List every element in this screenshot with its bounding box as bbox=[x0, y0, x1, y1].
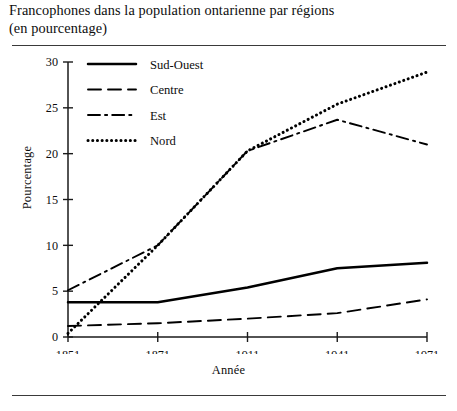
legend-label-sud-ouest: Sud-Ouest bbox=[150, 58, 204, 72]
chart-series bbox=[68, 72, 427, 333]
x-axis-tick-label: 1871 bbox=[146, 348, 170, 354]
legend-label-centre: Centre bbox=[150, 83, 184, 97]
y-axis-tick-label: 20 bbox=[46, 147, 58, 161]
figure-title-line-1: Francophones dans la population ontarien… bbox=[9, 2, 449, 20]
y-axis-tick-label: 30 bbox=[46, 55, 58, 69]
series-line-sud-ouest bbox=[68, 263, 427, 302]
chart-plot-area: 05101520253018511871191119411971 Sud-Oue… bbox=[0, 44, 457, 354]
line-chart-svg: 05101520253018511871191119411971 Sud-Oue… bbox=[0, 44, 457, 354]
y-axis-label: Pourcentage bbox=[20, 132, 35, 224]
y-axis-tick-label: 25 bbox=[46, 101, 58, 115]
legend-label-est: Est bbox=[150, 109, 167, 123]
y-axis-tick-label: 15 bbox=[46, 193, 58, 207]
figure-page: Francophones dans la population ontarien… bbox=[0, 0, 457, 411]
y-axis-tick-label: 5 bbox=[52, 284, 58, 298]
y-axis-tick-label: 0 bbox=[52, 330, 58, 344]
series-line-nord bbox=[68, 72, 427, 333]
x-axis-label: Année bbox=[0, 363, 457, 378]
series-line-est bbox=[68, 120, 427, 291]
legend-label-nord: Nord bbox=[150, 134, 177, 148]
figure-title: Francophones dans la population ontarien… bbox=[9, 2, 449, 37]
figure-title-line-2: (en pourcentage) bbox=[9, 20, 449, 38]
chart-legend: Sud-OuestCentreEstNord bbox=[88, 58, 204, 149]
bottom-divider-rule bbox=[12, 395, 446, 396]
x-axis-tick-label: 1941 bbox=[325, 348, 349, 354]
x-axis-tick-label: 1971 bbox=[415, 348, 439, 354]
x-axis-tick-label: 1911 bbox=[236, 348, 260, 354]
y-axis-tick-label: 10 bbox=[46, 239, 58, 253]
x-axis-tick-label: 1851 bbox=[56, 348, 80, 354]
chart-axes: 05101520253018511871191119411971 bbox=[46, 55, 439, 354]
